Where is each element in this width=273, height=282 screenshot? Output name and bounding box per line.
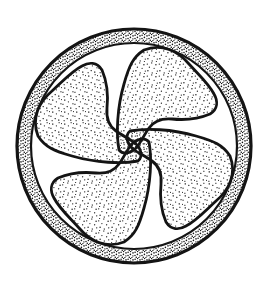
illustration-canvas [0,0,273,282]
stippled-pinwheel-illustration [0,0,273,282]
emblem-group [17,29,251,263]
